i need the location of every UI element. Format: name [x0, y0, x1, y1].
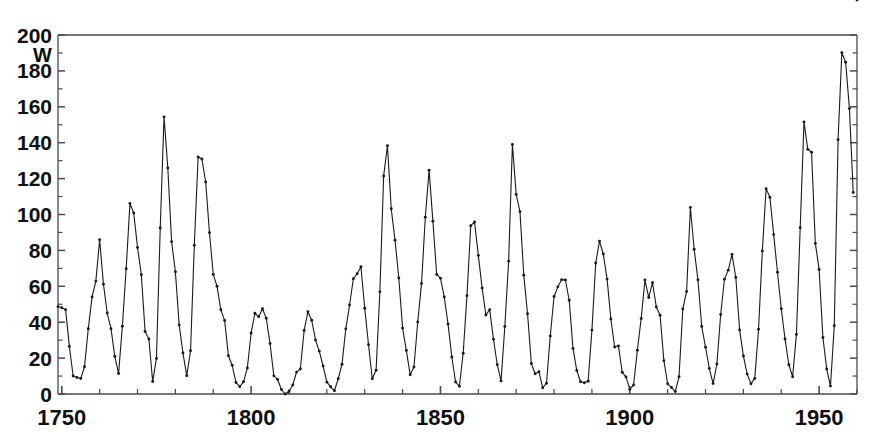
data-point — [791, 375, 794, 378]
data-point — [306, 310, 309, 313]
data-point — [291, 384, 294, 387]
data-point — [102, 283, 105, 286]
data-point — [375, 369, 378, 372]
data-point — [674, 390, 677, 393]
data-point — [647, 296, 650, 299]
data-point — [333, 389, 336, 392]
data-point — [231, 364, 234, 367]
data-point — [583, 381, 586, 384]
data-point — [651, 281, 654, 284]
data-point — [609, 318, 612, 321]
data-point — [549, 335, 552, 338]
data-point — [359, 265, 362, 268]
data-point — [163, 115, 166, 118]
data-point — [643, 279, 646, 282]
data-point — [787, 363, 790, 366]
data-point — [238, 385, 241, 388]
data-point — [212, 273, 215, 276]
y-tick-label: 40 — [29, 311, 52, 334]
data-point — [189, 349, 192, 352]
data-point — [288, 390, 291, 393]
data-point — [223, 319, 226, 322]
data-point — [678, 375, 681, 378]
data-point — [75, 376, 78, 379]
data-point — [572, 347, 575, 350]
data-point — [409, 373, 412, 376]
data-point — [147, 338, 150, 341]
data-point — [91, 295, 94, 298]
data-point — [803, 120, 806, 123]
data-point — [431, 220, 434, 223]
data-point — [765, 187, 768, 190]
data-point — [208, 231, 211, 234]
data-point — [329, 385, 332, 388]
data-point — [829, 385, 832, 388]
data-point — [159, 227, 162, 230]
data-point — [746, 373, 749, 376]
data-point — [405, 349, 408, 352]
data-point — [439, 277, 442, 280]
data-point — [753, 377, 756, 380]
data-point — [715, 363, 718, 366]
data-point — [178, 323, 181, 326]
data-point — [337, 377, 340, 380]
data-point — [325, 381, 328, 384]
data-point — [734, 276, 737, 279]
x-tick-label: 1950 — [795, 405, 844, 430]
data-point — [632, 384, 635, 387]
data-point — [295, 371, 298, 374]
data-point — [129, 202, 132, 205]
data-point — [768, 196, 771, 199]
data-point — [447, 323, 450, 326]
data-point — [522, 274, 525, 277]
data-point — [621, 371, 624, 374]
data-point — [170, 240, 173, 243]
data-point — [466, 294, 469, 297]
data-point — [731, 253, 734, 256]
data-point — [784, 338, 787, 341]
data-point — [280, 388, 283, 391]
x-tick-label: 1750 — [37, 405, 86, 430]
data-point — [780, 307, 783, 310]
data-point — [462, 352, 465, 355]
data-point — [852, 191, 855, 194]
data-point — [79, 377, 82, 380]
data-point — [655, 305, 658, 308]
data-point — [598, 240, 601, 243]
data-point — [261, 307, 264, 310]
data-point — [428, 169, 431, 172]
chart-background — [0, 0, 878, 443]
data-point — [166, 167, 169, 170]
data-point — [666, 382, 669, 385]
data-point — [151, 380, 154, 383]
data-point — [136, 246, 139, 249]
data-point — [454, 381, 457, 384]
data-point — [200, 158, 203, 161]
data-point — [689, 206, 692, 209]
data-point — [318, 350, 321, 353]
y-axis-unit-label: W — [33, 44, 52, 66]
data-point — [613, 346, 616, 349]
data-point — [738, 328, 741, 331]
data-point — [193, 244, 196, 247]
data-point — [772, 233, 775, 236]
data-point — [424, 216, 427, 219]
data-point — [314, 339, 317, 342]
data-point — [110, 327, 113, 330]
data-point — [810, 151, 813, 154]
data-point — [560, 278, 563, 281]
data-point — [155, 357, 158, 360]
data-point — [681, 307, 684, 310]
y-tick-label: 80 — [29, 239, 52, 262]
data-point — [397, 277, 400, 280]
data-point — [659, 314, 662, 317]
data-point — [697, 278, 700, 281]
data-point — [825, 368, 828, 371]
data-point — [435, 273, 438, 276]
data-point — [363, 307, 366, 310]
data-point — [750, 382, 753, 385]
data-point — [250, 332, 253, 335]
data-point — [840, 51, 843, 54]
data-point — [284, 393, 287, 396]
data-point — [356, 272, 359, 275]
